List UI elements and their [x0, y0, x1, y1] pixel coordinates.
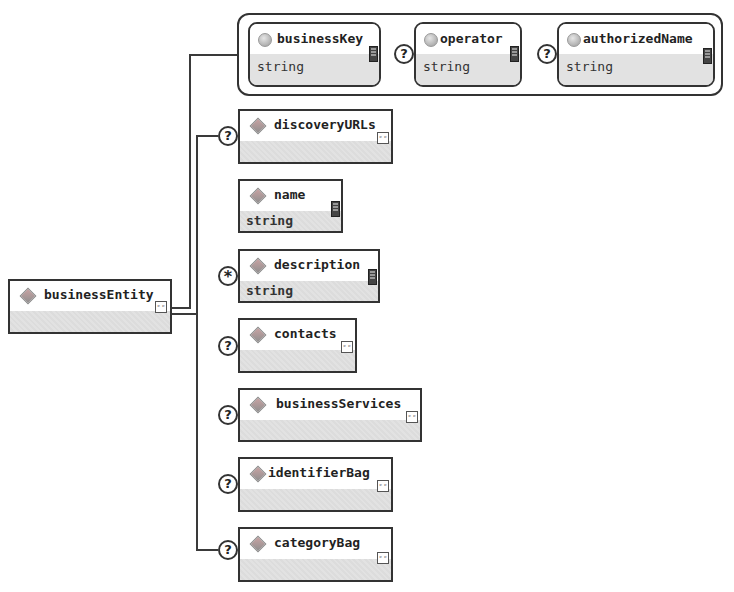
element-type: string	[246, 213, 293, 228]
attribute-operator[interactable]: operator string	[414, 22, 522, 87]
simple-type-list-icon	[510, 46, 519, 62]
attribute-type: string	[423, 59, 470, 74]
optional-icon: ?	[218, 540, 238, 560]
connector-children-vertical	[196, 135, 198, 550]
connector-attr-vertical	[189, 54, 191, 309]
connector-child-first	[196, 135, 218, 137]
element-description[interactable]: description string	[238, 249, 380, 303]
complex-type-icon[interactable]: ᶜᶜ	[406, 411, 418, 423]
connector-root-out-2	[171, 313, 197, 315]
attribute-ball-icon	[567, 33, 581, 47]
element-categoryBag[interactable]: categoryBag ᶜᶜ	[238, 527, 393, 582]
element-name: identifierBag	[268, 465, 370, 480]
attribute-ball-icon	[424, 33, 438, 47]
element-name: businessServices	[276, 396, 401, 411]
attribute-businessKey[interactable]: businessKey string	[248, 22, 381, 87]
attribute-name: authorizedName	[583, 31, 693, 46]
element-name[interactable]: name string	[238, 179, 343, 233]
optional-icon: ?	[218, 405, 238, 425]
element-type: string	[246, 283, 293, 298]
element-name: contacts	[274, 326, 337, 341]
attribute-authorizedName[interactable]: authorizedName string	[557, 22, 715, 87]
complex-type-icon[interactable]: ᶜᶜ	[341, 341, 353, 353]
element-name: businessEntity	[44, 287, 154, 302]
complex-type-icon[interactable]: ᶜᶜ	[155, 301, 167, 313]
element-name: description	[274, 257, 360, 272]
optional-icon: ?	[218, 126, 238, 146]
attribute-name: operator	[440, 31, 503, 46]
simple-type-list-icon	[368, 269, 377, 285]
element-name-label: name	[274, 187, 305, 202]
element-contacts[interactable]: contacts ᶜᶜ	[238, 318, 357, 373]
element-businessServices[interactable]: businessServices ᶜᶜ	[238, 388, 422, 442]
optional-icon: ?	[394, 44, 414, 64]
attribute-type: string	[566, 59, 613, 74]
complex-type-icon[interactable]: ᶜᶜ	[377, 480, 389, 492]
complex-type-icon[interactable]: ᶜᶜ	[377, 132, 389, 144]
attribute-type: string	[257, 59, 304, 74]
connector-root-out	[171, 307, 191, 309]
element-name: discoveryURLs	[274, 117, 376, 132]
attribute-ball-icon	[258, 33, 272, 47]
connector-child-last	[196, 549, 218, 551]
element-businessEntity[interactable]: businessEntity ᶜᶜ	[8, 279, 172, 334]
optional-icon: ?	[218, 336, 238, 356]
complex-type-icon[interactable]: ᶜᶜ	[377, 552, 389, 564]
connector-attr-horizontal	[189, 54, 238, 56]
element-name: categoryBag	[274, 535, 360, 550]
optional-icon: ?	[218, 474, 238, 494]
element-identifierBag[interactable]: identifierBag ᶜᶜ	[238, 457, 393, 512]
many-icon: *	[218, 266, 238, 286]
simple-type-list-icon	[331, 201, 340, 217]
simple-type-list-icon	[703, 48, 712, 64]
element-discoveryURLs[interactable]: discoveryURLs ᶜᶜ	[238, 109, 393, 164]
optional-icon: ?	[537, 44, 557, 64]
attribute-name: businessKey	[277, 31, 363, 46]
simple-type-list-icon	[369, 46, 378, 62]
